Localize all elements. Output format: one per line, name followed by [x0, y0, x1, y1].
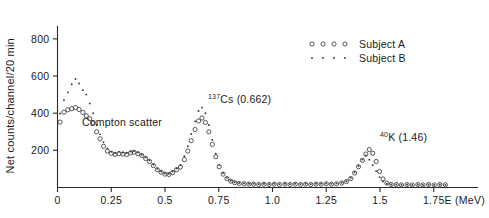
data-point: [361, 159, 363, 161]
data-point: [92, 112, 94, 114]
legend-marker: [310, 42, 314, 46]
legend-marker: [343, 42, 347, 46]
data-point: [379, 176, 381, 178]
data-point: [186, 149, 190, 153]
data-point: [180, 164, 182, 166]
data-point: [160, 171, 162, 173]
legend-marker: [344, 57, 346, 59]
legend-label: Subject B: [359, 52, 406, 64]
x-tick-label: 1.75: [423, 194, 445, 206]
y-tick-label: 400: [31, 107, 49, 119]
data-point: [81, 110, 85, 114]
data-point: [226, 177, 228, 179]
data-point: [428, 184, 430, 186]
data-point: [110, 151, 112, 153]
data-point: [406, 184, 408, 186]
data-point: [201, 107, 203, 109]
data-point: [77, 107, 81, 111]
data-point: [268, 183, 270, 185]
data-point: [375, 170, 377, 172]
data-point: [305, 183, 307, 185]
data-point: [168, 173, 170, 175]
y-axis-title: Net counts/channel/20 min: [4, 38, 16, 173]
data-point: [230, 180, 232, 182]
data-point: [300, 183, 302, 185]
data-point: [358, 165, 360, 167]
legend-marker: [321, 42, 325, 46]
data-point: [346, 180, 348, 182]
data-point: [189, 139, 193, 143]
data-point: [395, 184, 397, 186]
data-point: [214, 155, 218, 159]
legend-marker: [332, 42, 336, 46]
data-point: [367, 147, 371, 151]
compton-scatter-annotation: Compton scatter: [82, 116, 162, 128]
data-point: [63, 99, 65, 101]
data-point: [284, 183, 286, 185]
data-point: [390, 184, 392, 186]
data-point: [374, 159, 378, 163]
data-point: [200, 116, 204, 120]
data-point: [310, 183, 312, 185]
data-point: [248, 183, 250, 185]
y-tick-label: 800: [31, 33, 49, 45]
data-point: [133, 150, 135, 152]
annotations: Compton scatter137Cs (0.662)40K (1.46): [82, 93, 427, 143]
data-point: [325, 182, 327, 184]
data-point: [417, 184, 419, 186]
legend-marker: [311, 57, 313, 59]
data-point: [401, 184, 403, 186]
data-point: [114, 152, 116, 154]
data-point: [190, 133, 192, 135]
data-point: [71, 83, 73, 85]
data-point: [58, 120, 62, 124]
data-point: [289, 183, 291, 185]
data-point: [386, 183, 388, 185]
data-point: [372, 164, 374, 166]
data-point: [101, 144, 105, 148]
x-tick-label: 0: [54, 194, 60, 206]
data-point: [204, 112, 206, 114]
data-point: [130, 151, 132, 153]
data-point: [253, 183, 255, 185]
data-point: [207, 130, 211, 134]
data-point: [243, 182, 245, 184]
data-point: [258, 183, 260, 185]
legend-marker: [322, 57, 324, 59]
data-point: [122, 152, 124, 154]
data-point: [341, 182, 343, 184]
data-point: [444, 184, 446, 186]
data-point: [89, 103, 91, 105]
data-point: [381, 177, 385, 181]
data-point: [411, 184, 413, 186]
x-tick-label: 0.5: [157, 194, 173, 206]
data-point: [137, 152, 139, 154]
x-axis-title: E (MeV): [445, 194, 486, 206]
x-tick-label: 1.5: [372, 194, 388, 206]
data-point: [422, 184, 424, 186]
data-point: [62, 110, 66, 114]
data-point: [106, 148, 108, 150]
legend-item-subject-a: Subject A: [310, 38, 405, 50]
data-point: [238, 182, 240, 184]
legend-marker: [333, 57, 335, 59]
data-point: [439, 184, 441, 186]
data-point: [273, 183, 275, 185]
data-point: [176, 168, 178, 170]
data-point: [382, 181, 384, 183]
data-point: [222, 172, 224, 174]
x-tick-label: 0.75: [208, 194, 230, 206]
data-point: [156, 168, 158, 170]
data-point: [210, 142, 214, 146]
data-point: [377, 169, 381, 173]
data-point: [172, 171, 174, 173]
data-point: [182, 158, 186, 162]
data-point: [183, 155, 185, 157]
data-point: [78, 83, 80, 85]
data-point: [234, 181, 236, 183]
data-point: [208, 124, 210, 126]
cs137-annotation: 137Cs (0.662): [208, 93, 271, 105]
data-point: [59, 113, 61, 115]
gamma-spectrum-chart: 20040060080000.250.50.751.01.251.51.75E …: [0, 0, 489, 218]
data-point: [141, 154, 143, 156]
